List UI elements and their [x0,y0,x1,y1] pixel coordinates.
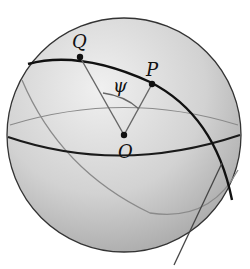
label-P: P [145,59,159,80]
label-psi: ψ [113,75,128,96]
sphere-diagram: Q P O ψ [0,0,250,269]
label-O: O [118,141,133,162]
point-O [121,132,127,138]
label-Q: Q [72,31,87,52]
point-Q [77,54,83,60]
point-P [149,81,155,87]
